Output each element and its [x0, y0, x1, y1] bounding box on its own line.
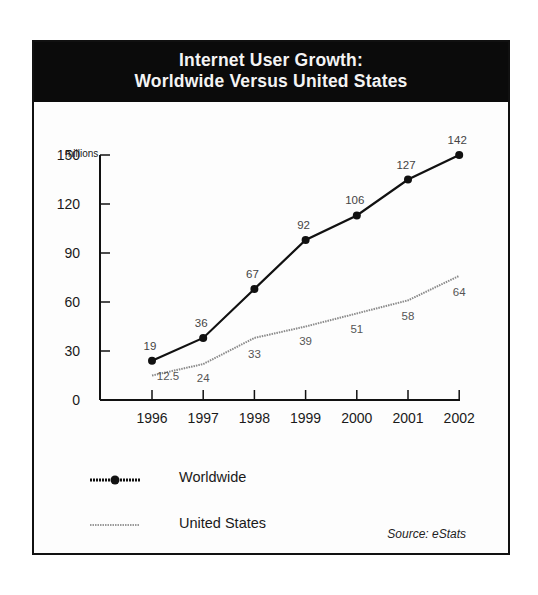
x-tick-label: 2000 [341, 410, 372, 426]
x-tick-label: 1996 [136, 410, 167, 426]
worldwide-marker [250, 285, 258, 293]
y-axis-unit-label: millions [65, 148, 98, 159]
series-worldwide: 19366792106127142 [144, 134, 467, 365]
worldwide-marker [199, 334, 207, 342]
x-tick-label: 1998 [239, 410, 270, 426]
worldwide-data-label: 127 [396, 159, 415, 171]
y-tick-label: 0 [72, 392, 80, 408]
y-tick-label: 90 [64, 245, 80, 261]
united-states-data-label: 58 [402, 310, 415, 322]
y-axis: 0306090120150 [57, 147, 110, 408]
legend-worldwide-swatch [90, 476, 140, 485]
united-states-data-label: 24 [197, 372, 210, 384]
united-states-data-label: 33 [248, 348, 261, 360]
worldwide-marker [455, 151, 463, 159]
worldwide-data-label: 19 [144, 340, 157, 352]
worldwide-data-label: 106 [345, 194, 364, 206]
y-tick-label: 120 [57, 196, 81, 212]
y-tick-label: 60 [64, 294, 80, 310]
chart-frame: Internet User Growth: Worldwide Versus U… [32, 40, 510, 555]
series-united-states: 12.5243339515864 [152, 276, 466, 384]
x-tick-label: 2002 [444, 410, 475, 426]
united-states-data-label: 12.5 [157, 370, 179, 382]
united-states-data-label: 64 [453, 286, 466, 298]
legend-swatches [90, 476, 140, 526]
worldwide-data-label: 67 [246, 268, 259, 280]
source-note: Source: eStats [387, 527, 466, 541]
worldwide-data-label: 92 [297, 219, 310, 231]
worldwide-data-label: 36 [195, 317, 208, 329]
worldwide-marker [404, 176, 412, 184]
worldwide-marker [148, 357, 156, 365]
x-tick-label: 1999 [290, 410, 321, 426]
legend-worldwide-label: Worldwide [179, 469, 246, 485]
worldwide-marker [353, 211, 361, 219]
line-chart: 0306090120150 19961997199819992000200120… [34, 42, 508, 553]
worldwide-data-label: 142 [448, 134, 467, 146]
x-tick-label: 1997 [188, 410, 219, 426]
y-tick-label: 30 [64, 343, 80, 359]
x-axis: 1996199719981999200020012002 [100, 390, 475, 426]
united-states-data-label: 39 [299, 335, 312, 347]
x-tick-label: 2001 [392, 410, 423, 426]
worldwide-marker [302, 236, 310, 244]
worldwide-line [152, 155, 459, 361]
legend-united-states-label: United States [179, 515, 266, 531]
united-states-data-label: 51 [350, 323, 363, 335]
